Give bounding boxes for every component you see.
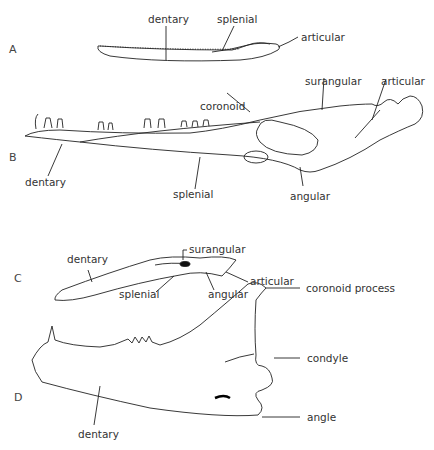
label-a-dentary: dentary bbox=[148, 14, 189, 25]
jaw-a-drawing bbox=[98, 26, 298, 61]
label-d-dentary: dentary bbox=[78, 429, 119, 440]
label-c-angular: angular bbox=[208, 289, 248, 300]
label-b-articular: articular bbox=[381, 76, 425, 87]
label-c-dentary: dentary bbox=[67, 254, 108, 265]
label-a-articular: articular bbox=[301, 32, 345, 43]
label-c-articular: articular bbox=[250, 276, 294, 287]
jaw-d-drawing bbox=[32, 283, 300, 425]
label-b-coronoid: coronoid bbox=[200, 101, 245, 112]
jaw-b-drawing bbox=[25, 78, 423, 189]
panel-letter-b: B bbox=[9, 152, 17, 163]
label-d-condyle: condyle bbox=[307, 353, 348, 364]
label-a-splenial: splenial bbox=[217, 14, 257, 25]
label-d-coronoid-process: coronoid process bbox=[306, 283, 395, 294]
label-c-surangular: surangular bbox=[189, 244, 246, 255]
panel-letter-a: A bbox=[9, 44, 17, 55]
label-d-angle: angle bbox=[307, 412, 336, 423]
label-c-splenial: splenial bbox=[119, 289, 159, 300]
label-b-surangular: surangular bbox=[305, 76, 362, 87]
panel-letter-c: C bbox=[14, 273, 22, 284]
jaw-diagram bbox=[0, 0, 434, 450]
label-b-angular: angular bbox=[290, 191, 330, 202]
label-b-splenial: splenial bbox=[173, 189, 213, 200]
panel-letter-d: D bbox=[14, 392, 22, 403]
label-b-dentary: dentary bbox=[25, 177, 66, 188]
